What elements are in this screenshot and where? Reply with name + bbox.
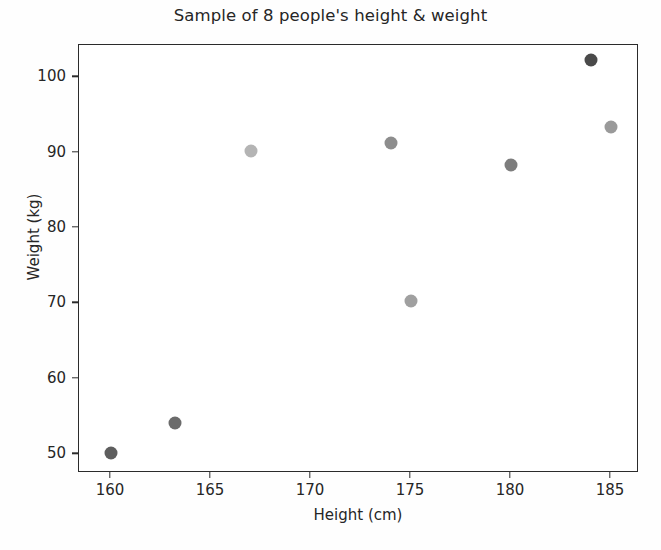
x-tick-label: 185 xyxy=(596,481,625,499)
y-tick-label: 60 xyxy=(47,369,66,387)
x-tick-label: 175 xyxy=(396,481,425,499)
x-tick-label: 180 xyxy=(496,481,525,499)
x-tick-mark xyxy=(509,472,510,478)
y-tick-label: 90 xyxy=(47,143,66,161)
y-tick-mark xyxy=(72,76,78,77)
x-tick-mark xyxy=(609,472,610,478)
data-point xyxy=(605,121,618,134)
x-axis-label: Height (cm) xyxy=(78,506,638,524)
chart-title: Sample of 8 people's height & weight xyxy=(0,6,661,25)
x-tick-mark xyxy=(409,472,410,478)
data-point xyxy=(105,447,118,460)
y-tick-label: 100 xyxy=(37,67,66,85)
data-points-layer xyxy=(79,45,637,471)
y-tick-label: 80 xyxy=(47,218,66,236)
y-tick-mark xyxy=(72,377,78,378)
x-tick-label: 170 xyxy=(296,481,325,499)
x-tick-mark xyxy=(109,472,110,478)
y-tick-mark xyxy=(72,151,78,152)
x-tick-mark xyxy=(309,472,310,478)
y-tick-mark xyxy=(72,452,78,453)
data-point xyxy=(245,145,258,158)
data-point xyxy=(585,54,598,67)
y-axis-label: Weight (kg) xyxy=(25,117,43,357)
x-tick-label: 160 xyxy=(96,481,125,499)
scatter-chart-figure: Sample of 8 people's height & weight 160… xyxy=(0,0,661,550)
data-point xyxy=(505,158,518,171)
data-point xyxy=(405,295,418,308)
plot-area xyxy=(78,44,638,472)
y-tick-label: 50 xyxy=(47,444,66,462)
x-tick-mark xyxy=(209,472,210,478)
data-point xyxy=(385,136,398,149)
data-point xyxy=(169,416,182,429)
y-tick-label: 70 xyxy=(47,293,66,311)
x-tick-label: 165 xyxy=(196,481,225,499)
y-tick-mark xyxy=(72,226,78,227)
y-tick-mark xyxy=(72,302,78,303)
